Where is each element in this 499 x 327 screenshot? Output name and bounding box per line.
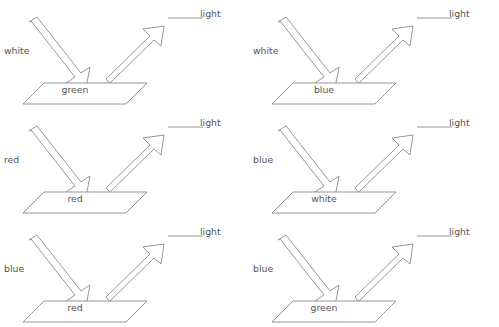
incoming-light-label: white (253, 46, 278, 55)
surface-label: blue (249, 85, 399, 94)
incoming-light-arrow-icon (278, 235, 339, 306)
diagram-panel-2: white blue light (249, 0, 499, 109)
diagram-panel-5: blue red light (0, 218, 250, 327)
incoming-light-arrow-icon (29, 235, 90, 306)
reflected-light-label: light (200, 9, 221, 18)
incoming-light-label: blue (4, 264, 24, 273)
reflected-light-label: light (449, 118, 470, 127)
diagram-panel-4: blue white light (249, 109, 499, 218)
reflected-light-arrow-icon (106, 244, 164, 304)
incoming-light-arrow-icon (278, 126, 339, 197)
reflected-light-label: light (200, 118, 221, 127)
light-reflection-worksheet: white green light white blue light red r… (0, 0, 499, 327)
surface-label: red (0, 303, 150, 312)
incoming-light-label: blue (253, 155, 273, 164)
surface-label: green (249, 303, 399, 312)
reflected-light-arrow-icon (355, 244, 413, 304)
reflected-light-arrow-icon (106, 26, 164, 86)
diagram-panel-6: blue green light (249, 218, 499, 327)
reflected-light-arrow-icon (355, 135, 413, 195)
reflected-light-arrow-icon (355, 26, 413, 86)
incoming-light-label: white (4, 46, 29, 55)
incoming-light-arrow-icon (278, 17, 339, 88)
surface-label: white (249, 194, 399, 203)
diagram-panel-3: red red light (0, 109, 250, 218)
reflected-light-label: light (449, 227, 470, 236)
reflected-light-label: light (449, 9, 470, 18)
surface-label: red (0, 194, 150, 203)
incoming-light-arrow-icon (29, 17, 90, 88)
diagram-panel-1: white green light (0, 0, 250, 109)
reflected-light-label: light (200, 227, 221, 236)
incoming-light-label: red (4, 155, 19, 164)
incoming-light-label: blue (253, 264, 273, 273)
incoming-light-arrow-icon (29, 126, 90, 197)
reflected-light-arrow-icon (106, 135, 164, 195)
surface-label: green (0, 85, 150, 94)
